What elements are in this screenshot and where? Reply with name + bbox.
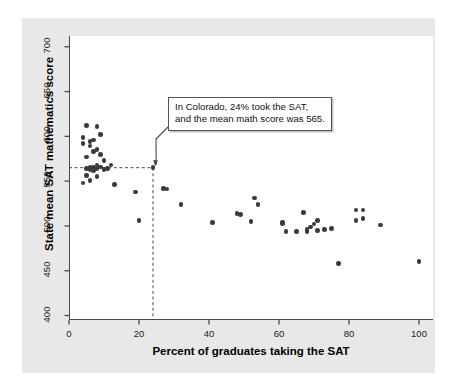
data-point (84, 155, 89, 160)
data-point (294, 229, 299, 234)
data-point (112, 182, 117, 187)
data-point (179, 202, 184, 207)
data-point (91, 138, 96, 143)
y-tick-label: 650 (41, 77, 52, 103)
data-point (256, 202, 261, 207)
data-point (98, 152, 103, 157)
data-point (81, 141, 86, 146)
data-point (322, 227, 327, 232)
y-tick-label: 700 (41, 32, 52, 58)
figure-container: State mean SAT mathematics score Percent… (0, 0, 457, 390)
data-point (238, 212, 243, 217)
y-tick-label: 400 (41, 301, 52, 327)
data-point (133, 190, 138, 195)
data-point (81, 135, 86, 140)
x-tick-label: 20 (127, 328, 151, 339)
data-point (84, 123, 89, 128)
data-point (210, 220, 215, 225)
data-point (95, 124, 100, 129)
data-point (102, 158, 107, 163)
y-tick-label: 450 (41, 256, 52, 282)
annotation-line-2: and the mean math score was 565. (175, 113, 325, 125)
data-point (336, 261, 341, 266)
data-point (329, 226, 334, 231)
data-point (88, 178, 93, 183)
data-point (98, 132, 103, 137)
data-point (249, 219, 254, 224)
y-tick-label: 500 (41, 211, 52, 237)
x-tick-label: 80 (337, 328, 361, 339)
data-point (105, 166, 110, 171)
annotation-line-1: In Colorado, 24% took the SAT, (175, 101, 325, 113)
data-point (354, 218, 359, 223)
data-point (315, 228, 320, 233)
annotation-callout: In Colorado, 24% took the SAT, and the m… (168, 97, 332, 131)
x-tick-label: 60 (267, 328, 291, 339)
y-tick-label: 600 (41, 122, 52, 148)
x-tick-label: 0 (57, 328, 81, 339)
data-point (378, 223, 383, 228)
annotation-leader-line (156, 127, 168, 165)
y-tick-label: 550 (41, 167, 52, 193)
x-tick-label: 100 (407, 328, 431, 339)
data-point (301, 210, 306, 215)
x-tick-label: 40 (197, 328, 221, 339)
data-point (284, 229, 289, 234)
data-point (137, 218, 142, 223)
data-point (280, 221, 285, 226)
data-point (305, 229, 310, 234)
data-point (315, 218, 320, 223)
